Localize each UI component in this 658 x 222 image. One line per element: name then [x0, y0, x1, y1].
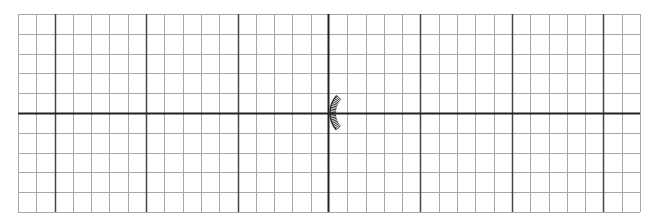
grid-canvas	[0, 0, 658, 222]
axis-lines	[18, 14, 640, 212]
